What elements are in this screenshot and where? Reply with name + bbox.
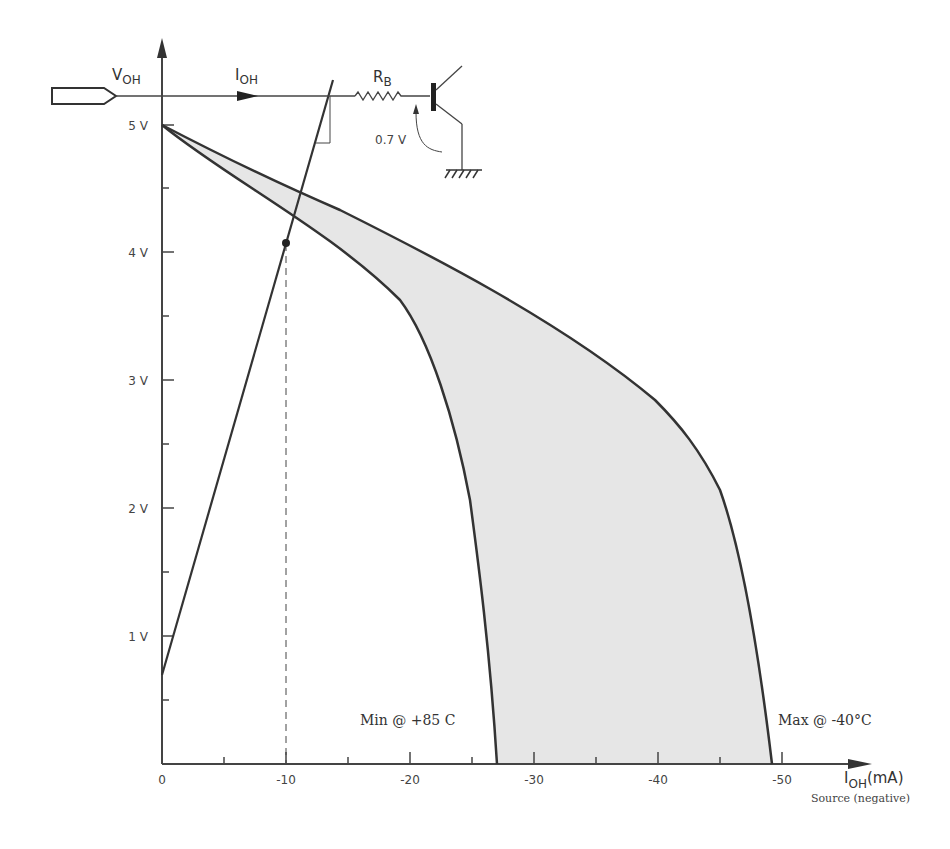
vbe-label: 0.7 V	[375, 133, 407, 147]
transistor-base	[431, 83, 436, 111]
x-tick-40: -40	[648, 773, 668, 787]
x-tick-50: -50	[772, 773, 792, 787]
x-tick-0: 0	[158, 773, 166, 787]
x-tick-30: -30	[524, 773, 544, 787]
voh-ioh-chart: 5 V 4 V 3 V 2 V 1 V 0 -10 -20 -30 -40 -5…	[0, 0, 950, 849]
y-tick-5v: 5 V	[128, 119, 148, 133]
resistor-rb	[355, 92, 430, 100]
slope-marker	[316, 96, 330, 143]
x-axis-arrow	[848, 759, 872, 769]
y-axis-arrow	[157, 38, 167, 58]
y-tick-2v: 2 V	[128, 502, 148, 516]
y-ticks	[162, 125, 174, 700]
x-tick-20: -20	[400, 773, 420, 787]
ioh-label: IOH	[235, 66, 258, 87]
output-pin-connector	[52, 88, 116, 104]
min-curve-label: Min @ +85 C	[360, 712, 455, 728]
x-axis-note: Source (negative)	[811, 792, 910, 805]
max-curve-label: Max @ -40°C	[778, 712, 872, 728]
rb-label: RB	[373, 68, 392, 89]
vbe-arrowhead	[413, 104, 419, 114]
transistor-emitter	[436, 104, 462, 124]
y-tick-3v: 3 V	[128, 374, 148, 388]
voh-label: VOH	[112, 66, 141, 87]
y-tick-4v: 4 V	[128, 246, 148, 260]
y-tick-1v: 1 V	[128, 630, 148, 644]
tolerance-band	[162, 125, 772, 764]
ground-icon	[445, 170, 482, 178]
x-axis-label: IOH(mA)	[844, 769, 903, 791]
x-tick-10: -10	[276, 773, 296, 787]
current-arrow	[237, 91, 258, 101]
operating-point	[282, 239, 290, 247]
transistor-collector	[436, 66, 462, 90]
vbe-arrow	[416, 112, 442, 152]
